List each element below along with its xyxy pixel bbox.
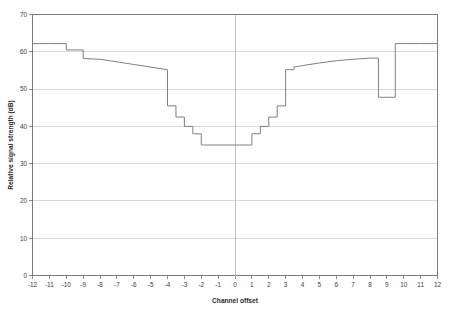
y-tick-label: 0 bbox=[23, 272, 27, 279]
y-tick-label: 60 bbox=[20, 48, 28, 55]
x-tick-label: 3 bbox=[284, 281, 288, 288]
x-tick-label: 5 bbox=[318, 281, 322, 288]
signal-strength-chart: 010203040506070 -12-11-10-9-8-7-6-5-4-3-… bbox=[0, 0, 467, 311]
y-tick-label: 50 bbox=[20, 85, 28, 92]
x-tick-label: 1 bbox=[250, 281, 254, 288]
x-tick-label: -1 bbox=[215, 281, 221, 288]
x-tick-label: -12 bbox=[28, 281, 38, 288]
chart-container: 010203040506070 -12-11-10-9-8-7-6-5-4-3-… bbox=[0, 0, 467, 311]
y-tick-label: 10 bbox=[20, 235, 28, 242]
x-tick-label: -10 bbox=[62, 281, 72, 288]
x-tick-label: -5 bbox=[148, 281, 154, 288]
y-tick-label: 70 bbox=[20, 11, 28, 18]
x-tick-label: -11 bbox=[45, 281, 54, 288]
x-tick-label: 11 bbox=[417, 281, 424, 288]
x-tick-label: -4 bbox=[165, 281, 171, 288]
x-tick-label: -3 bbox=[182, 281, 188, 288]
x-tick-label: 8 bbox=[368, 281, 372, 288]
x-tick-label: -9 bbox=[80, 281, 86, 288]
x-tick-label: -7 bbox=[114, 281, 120, 288]
y-tick-label: 20 bbox=[20, 197, 28, 204]
x-tick-label: -8 bbox=[97, 281, 103, 288]
x-tick-label: 7 bbox=[351, 281, 355, 288]
x-axis-ticks: -12-11-10-9-8-7-6-5-4-3-2-10123456789101… bbox=[28, 276, 442, 289]
x-tick-label: 10 bbox=[400, 281, 408, 288]
y-axis-ticks: 010203040506070 bbox=[20, 11, 33, 279]
x-tick-label: -2 bbox=[198, 281, 204, 288]
y-tick-label: 40 bbox=[20, 123, 28, 130]
x-tick-label: 12 bbox=[434, 281, 442, 288]
y-axis-title: Relative signal strength (dB) bbox=[7, 100, 15, 189]
x-axis-title: Channel offset bbox=[212, 297, 259, 304]
x-tick-label: 0 bbox=[233, 281, 237, 288]
x-tick-label: -6 bbox=[131, 281, 137, 288]
x-tick-label: 6 bbox=[334, 281, 338, 288]
x-tick-label: 9 bbox=[385, 281, 389, 288]
x-tick-label: 4 bbox=[301, 281, 305, 288]
y-tick-label: 30 bbox=[20, 160, 28, 167]
x-tick-label: 2 bbox=[267, 281, 271, 288]
